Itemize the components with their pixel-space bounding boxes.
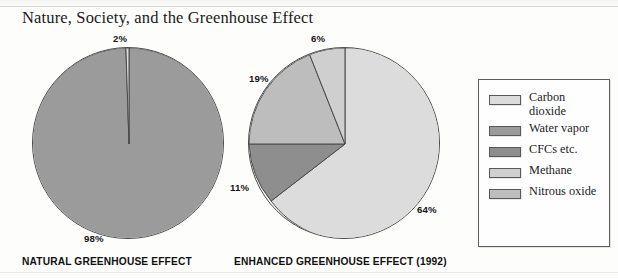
legend-item-nitrous-oxide: Nitrous oxide bbox=[489, 185, 605, 202]
legend-item-water-vapor: Water vapor bbox=[489, 122, 605, 139]
scan-edge-bottom bbox=[0, 272, 618, 273]
legend-swatch-methane bbox=[489, 168, 521, 178]
pie-enhanced-svg bbox=[249, 48, 440, 239]
figure-caption-natural: NATURAL GREENHOUSE EFFECT bbox=[22, 256, 192, 267]
pie-label-enhanced-64pct: 64% bbox=[417, 204, 437, 215]
page-title: Nature, Society, and the Greenhouse Effe… bbox=[22, 8, 313, 28]
legend-swatch-carbon-dioxide bbox=[489, 95, 521, 105]
pie-chart-enhanced bbox=[248, 47, 440, 239]
pie-chart-natural bbox=[32, 47, 224, 239]
scan-edge-top bbox=[0, 6, 618, 7]
legend-label-cfcs: CFCs etc. bbox=[529, 143, 578, 157]
legend-item-methane: Methane bbox=[489, 164, 605, 181]
pie-label-enhanced-19pct: 19% bbox=[249, 73, 269, 84]
legend-swatch-nitrous-oxide bbox=[489, 189, 521, 199]
pie-label-natural-2pct: 2% bbox=[113, 33, 127, 44]
pie-natural-svg bbox=[33, 48, 224, 239]
legend-swatch-cfcs bbox=[489, 147, 521, 157]
legend-label-water-vapor: Water vapor bbox=[529, 122, 589, 136]
legend-label-methane: Methane bbox=[529, 164, 572, 178]
chart-legend: Carbon dioxide Water vapor CFCs etc. Met… bbox=[478, 79, 610, 247]
pie-label-enhanced-6pct: 6% bbox=[311, 33, 325, 44]
legend-label-nitrous-oxide: Nitrous oxide bbox=[529, 185, 596, 199]
legend-list: Carbon dioxide Water vapor CFCs etc. Met… bbox=[489, 91, 605, 206]
page-canvas: Nature, Society, and the Greenhouse Effe… bbox=[0, 0, 618, 278]
pie-label-natural-98pct: 98% bbox=[84, 233, 104, 244]
legend-swatch-water-vapor bbox=[489, 126, 521, 136]
legend-item-carbon-dioxide: Carbon dioxide bbox=[489, 91, 605, 118]
legend-item-cfcs: CFCs etc. bbox=[489, 143, 605, 160]
figure-caption-enhanced: ENHANCED GREENHOUSE EFFECT (1992) bbox=[234, 256, 447, 267]
pie-label-enhanced-11pct: 11% bbox=[230, 182, 249, 193]
legend-label-carbon-dioxide: Carbon dioxide bbox=[529, 91, 601, 118]
